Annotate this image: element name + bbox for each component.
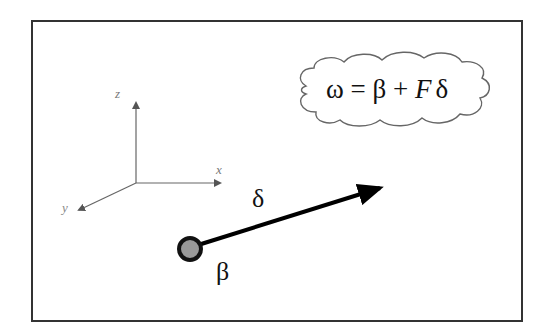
diagram-svg: [0, 0, 546, 333]
delta-vector-arrow: [198, 188, 380, 245]
beta-label: β: [216, 257, 229, 287]
f-symbol: F: [415, 74, 432, 104]
coordinate-axes: [79, 103, 220, 210]
equation: ω = β + Fδ: [326, 74, 448, 105]
delta-symbol: δ: [436, 74, 449, 104]
delta-label: δ: [252, 184, 264, 214]
plus-sign: +: [393, 74, 408, 104]
equals-sign: =: [351, 74, 366, 104]
beta-symbol: β: [373, 74, 387, 104]
z-axis-label: z: [115, 86, 120, 102]
y-axis: [79, 183, 136, 210]
omega-symbol: ω: [326, 74, 344, 104]
y-axis-label: y: [62, 200, 68, 216]
diagram-canvas: ω = β + Fδ z x y δ β: [0, 0, 546, 333]
x-axis-label: x: [216, 162, 222, 178]
beta-point: [179, 238, 201, 260]
